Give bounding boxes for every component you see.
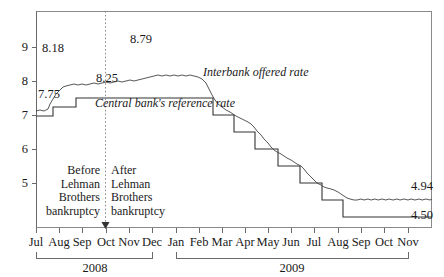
xtick-mark-aug-2008 xyxy=(59,228,60,233)
value-label-7-75: 7.75 xyxy=(38,88,60,101)
xtick-mark-jun-2009 xyxy=(291,228,292,233)
lehman-before-line-4: bankruptcy xyxy=(28,205,100,219)
xtick-mark-nov-2008 xyxy=(129,228,130,233)
year-label-2008: 2008 xyxy=(74,262,116,275)
value-label-8-18: 8.18 xyxy=(42,42,64,55)
lehman-after-line-2: Lehman xyxy=(111,178,187,192)
interest-rate-chart: 9 8 7 6 5 Jul Aug Sep Oct Nov Dec Jan Fe… xyxy=(0,0,444,277)
series-label-reference-rate: Central bank's reference rate xyxy=(95,97,235,109)
value-label-4-94: 4.94 xyxy=(411,180,433,193)
xtick-mark-feb-2009 xyxy=(199,228,200,233)
xtick-mark-mar-2009 xyxy=(222,228,223,233)
xtick-mark-oct-2008 xyxy=(106,228,107,233)
xtick-mark-oct-2009 xyxy=(384,228,385,233)
lehman-after-line-4: bankruptcy xyxy=(111,205,187,219)
year-bracket-2008 xyxy=(36,252,153,259)
ytick-mark-6 xyxy=(32,149,37,150)
year-label-2009: 2009 xyxy=(271,262,313,275)
ytick-label-6: 6 xyxy=(6,143,28,156)
value-label-8-25: 8.25 xyxy=(96,72,118,85)
xtick-mark-may-2009 xyxy=(268,228,269,233)
ytick-label-8: 8 xyxy=(6,75,28,88)
ytick-label-9: 9 xyxy=(6,41,28,54)
lehman-before-line-1: Before xyxy=(28,164,100,178)
xtick-mark-jul-2009 xyxy=(314,228,315,233)
xtick-mark-sep-2008 xyxy=(82,228,83,233)
ytick-mark-7 xyxy=(32,115,37,116)
xtick-label-nov-2009: Nov xyxy=(388,236,428,249)
value-label-8-79: 8.79 xyxy=(130,33,152,46)
lehman-before-line-3: Brothers xyxy=(28,191,100,205)
value-label-4-50: 4.50 xyxy=(411,209,433,222)
xtick-mark-jul-2008 xyxy=(36,228,37,233)
xtick-mark-dec-2008 xyxy=(152,228,153,233)
lehman-before-line-2: Lehman xyxy=(28,178,100,192)
xtick-mark-aug-2009 xyxy=(338,228,339,233)
ytick-mark-8 xyxy=(32,81,37,82)
lehman-before-block: Before Lehman Brothers bankruptcy xyxy=(28,164,100,218)
xtick-mark-sep-2009 xyxy=(361,228,362,233)
year-bracket-2009 xyxy=(176,252,409,259)
xtick-mark-nov-2009 xyxy=(408,228,409,233)
series-label-interbank-rate: Interbank offered rate xyxy=(203,66,309,78)
xtick-mark-apr-2009 xyxy=(245,228,246,233)
xtick-mark-jan-2009 xyxy=(176,228,177,233)
ytick-label-7: 7 xyxy=(6,109,28,122)
ytick-mark-9 xyxy=(32,47,37,48)
ytick-label-5: 5 xyxy=(6,177,28,190)
lehman-after-line-1: After xyxy=(111,164,187,178)
lehman-after-line-3: Brothers xyxy=(111,191,187,205)
lehman-after-block: After Lehman Brothers bankruptcy xyxy=(111,164,187,218)
